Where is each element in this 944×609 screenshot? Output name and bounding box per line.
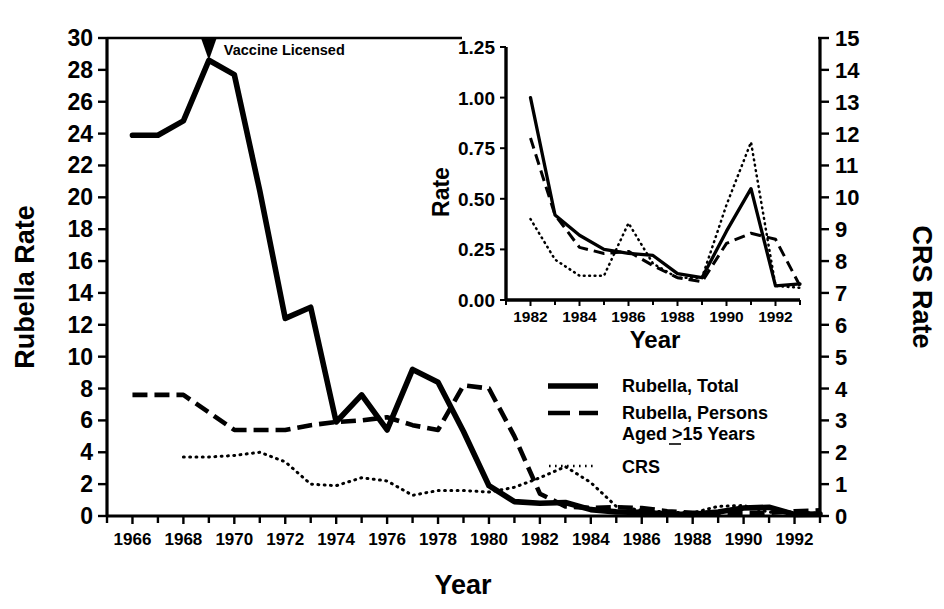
inset-background — [462, 23, 818, 332]
main-right-tick-label: 2 — [835, 440, 847, 465]
main-y-tick-label: 20 — [67, 184, 93, 210]
main-x-tick-label: 1984 — [572, 530, 610, 549]
main-right-tick-label: 4 — [835, 377, 848, 402]
legend-label-rubella-total: Rubella, Total — [622, 376, 739, 396]
main-y-tick-label: 18 — [67, 216, 93, 242]
main-x-tick-label: 1986 — [623, 530, 661, 549]
main-right-tick-label: 6 — [835, 313, 847, 338]
inset-plot-frame — [462, 23, 818, 332]
main-x-tick-label: 1982 — [521, 530, 559, 549]
inset-x-tick-label: 1992 — [758, 308, 792, 325]
main-right-tick-label: 13 — [835, 90, 859, 115]
inset-y-tick-label: 0.50 — [458, 189, 495, 210]
main-right-tick-label: 1 — [835, 472, 847, 497]
main-y-tick-label: 24 — [67, 121, 93, 147]
inset-x-tick-label: 1988 — [660, 308, 695, 325]
main-right-tick-label: 7 — [835, 281, 847, 306]
main-y-tick-label: 26 — [67, 89, 93, 115]
main-right-tick-label: 15 — [835, 26, 859, 51]
main-x-axis-title: Year — [434, 570, 492, 600]
main-x-tick-label: 1978 — [419, 530, 457, 549]
main-y-tick-label: 2 — [80, 471, 93, 497]
rubella-crs-chart: 1966196819701972197419761978198019821984… — [0, 0, 944, 609]
inset-x-tick-label: 1986 — [611, 308, 646, 325]
main-right-tick-label: 12 — [835, 122, 859, 147]
main-y-tick-label: 10 — [67, 344, 93, 370]
main-x-tick-label: 1988 — [674, 530, 712, 549]
inset-y-axis-title: Rate — [428, 167, 454, 217]
main-y-tick-label: 14 — [67, 280, 93, 306]
main-right-tick-label: 14 — [835, 58, 860, 83]
main-y-tick-label: 28 — [67, 57, 93, 83]
main-right-tick-label: 10 — [835, 185, 859, 210]
left-axis-title: Rubella Rate — [10, 205, 40, 369]
main-y-tick-label: 12 — [67, 312, 93, 338]
legend-label-rubella-15plus-line2: Aged >15 Years — [622, 424, 755, 444]
inset-y-tick-label: 1.00 — [458, 88, 495, 109]
right-axis-title: CRS Rate — [907, 225, 937, 348]
vaccine-licensed-label: Vaccine Licensed — [224, 42, 345, 58]
inset-y-tick-label: 0.75 — [458, 138, 495, 159]
main-x-tick-label: 1970 — [215, 530, 253, 549]
main-x-tick-label: 1972 — [266, 530, 304, 549]
figure-root: 1966196819701972197419761978198019821984… — [0, 0, 944, 609]
inset-x-axis-title: Year — [630, 326, 681, 353]
main-x-tick-label: 1990 — [725, 530, 763, 549]
main-x-tick-label: 1966 — [114, 530, 152, 549]
inset-x-tick-label: 1984 — [562, 308, 597, 325]
main-x-tick-label: 1980 — [470, 530, 508, 549]
inset-y-tick-label: 1.25 — [458, 37, 495, 58]
inset-y-tick-label: 0.00 — [458, 290, 495, 311]
main-right-tick-label: 9 — [835, 217, 847, 242]
main-y-tick-label: 8 — [80, 376, 93, 402]
inset-y-tick-label: 0.25 — [458, 239, 495, 260]
main-x-tick-label: 1976 — [368, 530, 406, 549]
main-right-tick-label: 3 — [835, 408, 847, 433]
main-y-tick-label: 30 — [67, 25, 93, 51]
vaccine-licensed-annotation: Vaccine Licensed — [201, 39, 344, 60]
main-y-tick-label: 0 — [80, 503, 93, 529]
main-right-tick-label: 11 — [835, 153, 858, 178]
main-y-tick-label: 22 — [67, 152, 93, 178]
legend-label-crs: CRS — [622, 457, 660, 477]
legend-label-rubella-15plus-line1: Rubella, Persons — [622, 403, 768, 423]
main-right-tick-label: 8 — [835, 249, 847, 274]
main-x-tick-label: 1992 — [776, 530, 814, 549]
main-y-tick-label: 4 — [80, 439, 93, 465]
inset-plot: 198219841986198819901992 0.000.250.500.7… — [428, 23, 818, 353]
main-right-tick-label: 5 — [835, 345, 847, 370]
inset-x-tick-label: 1982 — [513, 308, 547, 325]
main-y-tick-label: 6 — [80, 407, 93, 433]
main-right-tick-label: 0 — [835, 504, 847, 529]
main-x-tick-label: 1968 — [164, 530, 202, 549]
inset-x-tick-label: 1990 — [709, 308, 743, 325]
main-x-tick-label: 1974 — [317, 530, 355, 549]
main-y-tick-label: 16 — [67, 248, 93, 274]
